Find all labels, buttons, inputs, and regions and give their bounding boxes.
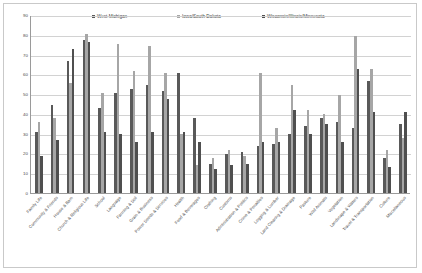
bar-group — [173, 16, 189, 193]
bar-group — [284, 16, 300, 193]
bar — [278, 142, 281, 193]
bar — [119, 134, 122, 193]
bar — [246, 164, 249, 194]
bar — [373, 112, 376, 193]
bar — [56, 140, 59, 193]
bar — [151, 132, 154, 193]
y-axis-tick-label: 80 — [23, 34, 28, 38]
bar — [404, 112, 407, 193]
x-axis-tick-label: School — [94, 196, 106, 209]
bar-group — [205, 16, 221, 193]
bar — [88, 42, 91, 193]
bar — [198, 142, 201, 193]
bar — [214, 169, 217, 193]
bar — [40, 156, 43, 193]
bar — [341, 142, 344, 193]
bar-group — [268, 16, 284, 193]
y-axis-tick-label: 40 — [23, 113, 28, 117]
bar-groups — [31, 16, 411, 193]
x-axis-labels: Family LifeCommunity & FriendsHouse & Ba… — [30, 196, 410, 270]
x-axis-tick-label: Power Seeds & Services — [135, 196, 170, 234]
bar — [309, 134, 312, 193]
bar — [293, 110, 296, 193]
bar-group — [189, 16, 205, 193]
bar — [183, 132, 186, 193]
bar — [72, 49, 75, 193]
y-axis-tick-label: 70 — [23, 53, 28, 57]
bar — [262, 142, 265, 193]
bar-group — [332, 16, 348, 193]
bar-group — [142, 16, 158, 193]
bar-group — [63, 16, 79, 193]
bar-group — [47, 16, 63, 193]
x-axis-tick-label: Health — [174, 196, 186, 208]
x-axis-tick-label: Culture — [379, 196, 392, 209]
y-axis-tick-label: 60 — [23, 73, 28, 77]
bar-group — [110, 16, 126, 193]
bar-group — [316, 16, 332, 193]
y-axis-tick-label: 10 — [23, 172, 28, 176]
y-axis-tick-label: 0 — [26, 192, 28, 196]
bar-group — [237, 16, 253, 193]
y-axis-tick-label: 90 — [23, 14, 28, 18]
bar-group — [300, 16, 316, 193]
bar-group — [94, 16, 110, 193]
bar-group — [221, 16, 237, 193]
bar-group — [348, 16, 364, 193]
y-axis-tick-label: 30 — [23, 132, 28, 136]
x-axis-tick-label: Clothing — [203, 196, 217, 211]
bar-group — [379, 16, 395, 193]
bar-chart: West Michigan Iowa/South Dakota Wisconsi… — [0, 0, 422, 273]
bar — [135, 142, 138, 193]
bar — [167, 99, 170, 193]
x-axis-tick-label: Pasture — [299, 196, 312, 210]
x-axis-tick-label: Church & Religious Life — [57, 196, 90, 232]
bar-group — [253, 16, 269, 193]
y-axis-tick-label: 20 — [23, 152, 28, 156]
bar-group — [78, 16, 94, 193]
x-axis-tick-label: Travel & Transportation — [343, 196, 376, 232]
bar — [325, 124, 328, 193]
plot-area: 0102030405060708090 — [30, 16, 410, 194]
bar — [357, 69, 360, 193]
bar-group — [126, 16, 142, 193]
bar-group — [31, 16, 47, 193]
x-axis-tick-label: Land Clearing & Drainage — [260, 196, 297, 236]
bar-group — [395, 16, 411, 193]
bar — [230, 165, 233, 193]
bar-group — [158, 16, 174, 193]
bar — [104, 132, 107, 193]
bar — [388, 167, 391, 193]
y-axis-tick-label: 50 — [23, 93, 28, 97]
bar-group — [363, 16, 379, 193]
